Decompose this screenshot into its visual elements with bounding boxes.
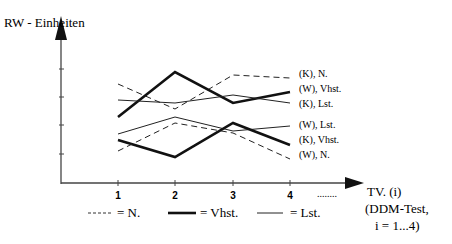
x-tick-label: 1	[115, 190, 121, 201]
label-k-n: (K), N.	[299, 68, 328, 80]
series-w-vhst	[118, 72, 290, 117]
x-tick-labels: 1 2 3 4	[115, 190, 293, 201]
x-tick-label: 3	[230, 190, 236, 201]
x-axis-note-line2: i = 1...4)	[375, 218, 420, 233]
legend: = N. = Vhst. = Lst.	[88, 205, 320, 220]
x-axis-arrow-icon	[345, 177, 364, 189]
x-tick-label: 2	[172, 190, 178, 201]
series-w-lst	[118, 117, 290, 134]
x-continuation-dots: ........	[317, 188, 337, 199]
legend-label-vhst: = Vhst.	[200, 205, 238, 220]
label-k-vhst: (K), Vhst.	[299, 134, 339, 146]
x-tick-label: 4	[287, 190, 293, 201]
label-k-lst: (K), Lst.	[299, 98, 333, 110]
diagram-canvas: RW - Einheiten (K), N. (W), Vhst. (K), L…	[0, 0, 452, 244]
series-k-n	[118, 75, 290, 109]
legend-label-n: = N.	[117, 205, 140, 220]
y-axis-label: RW - Einheiten	[4, 15, 85, 30]
label-w-n: (W), N.	[299, 149, 330, 161]
x-axis-note-line1: (DDM-Test,	[365, 201, 429, 216]
label-w-vhst: (W), Vhst.	[299, 83, 341, 95]
label-w-lst: (W), Lst.	[299, 119, 335, 131]
x-axis-label: TV. (i)	[367, 184, 401, 199]
legend-label-lst: = Lst.	[290, 205, 320, 220]
series-labels: (K), N. (W), Vhst. (K), Lst. (W), Lst. (…	[299, 68, 341, 161]
